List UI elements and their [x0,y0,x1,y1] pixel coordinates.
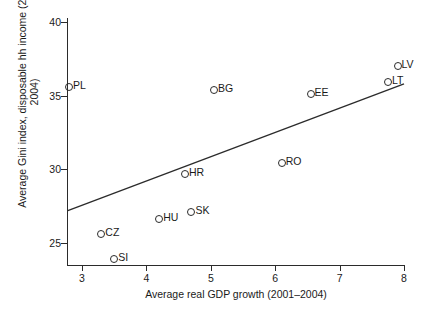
data-point-marker-icon [65,83,73,91]
x-tick-label: 4 [134,273,158,284]
y-tick-mark [61,169,67,170]
data-point-marker-icon [384,78,392,86]
data-point-label: HU [163,212,178,223]
y-tick-mark [61,22,67,23]
data-point-label: RO [286,156,302,167]
data-point-label: LT [392,75,403,86]
x-tick-label: 8 [392,273,416,284]
data-point-label: EE [315,87,329,98]
y-tick-label-wrap: 25 [0,238,61,249]
x-tick-mark [404,265,405,271]
data-point-label: CZ [105,227,119,238]
x-axis-line [67,265,405,266]
data-point-marker-icon [97,230,105,238]
x-tick-label: 7 [328,273,352,284]
x-tick-mark [340,265,341,271]
data-point-marker-icon [394,62,402,70]
data-point-label: PL [73,80,86,91]
x-tick-mark [146,265,147,271]
y-axis-title-text: Average Gini index, disposable hh income… [16,0,41,217]
y-tick-mark [61,243,67,244]
x-tick-label: 5 [199,273,223,284]
y-axis-title: Average Gini index, disposable hh income… [14,0,42,217]
plot-area: 25303540 345678 PLCZSIHUHRSKBGROEELTLV [0,0,429,311]
data-point-label: SK [195,205,209,216]
data-point-label: SI [118,252,128,263]
x-tick-mark [82,265,83,271]
scatter-chart-figure: 25303540 345678 PLCZSIHUHRSKBGROEELTLV A… [0,0,429,311]
x-tick-mark [275,265,276,271]
data-point-marker-icon [155,215,163,223]
x-axis-title: Average real GDP growth (2001–2004) [67,288,405,300]
data-point-marker-icon [210,86,218,94]
data-point-marker-icon [278,159,286,167]
data-point-marker-icon [307,90,315,98]
data-point-marker-icon [181,170,189,178]
y-tick-mark [61,96,67,97]
data-point-marker-icon [110,255,118,263]
data-point-label: HR [189,167,204,178]
x-tick-mark [211,265,212,271]
data-point-label: LV [402,59,414,70]
data-point-label: BG [218,83,233,94]
data-point-marker-icon [187,208,195,216]
y-axis-line [67,18,68,266]
x-tick-label: 6 [263,273,287,284]
y-tick-label: 25 [9,238,61,249]
x-tick-label: 3 [70,273,94,284]
